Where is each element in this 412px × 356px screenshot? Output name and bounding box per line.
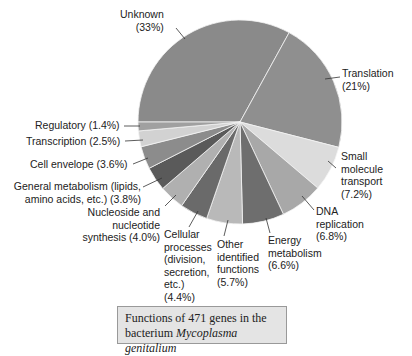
label-text: etc.)	[164, 278, 212, 291]
label-dna-replication: DNA replication (6.8%)	[316, 205, 364, 243]
label-text: Small	[341, 150, 383, 163]
label-text: General metabolism (lipids,	[14, 180, 141, 193]
label-value: (7.2%)	[341, 188, 383, 201]
label-text: replication	[316, 218, 364, 231]
label-text: functions	[217, 263, 259, 276]
label-text: Other	[217, 238, 259, 251]
label-value: (5.7%)	[217, 276, 259, 289]
label-value: (6.8%)	[316, 230, 364, 243]
label-text: (division,	[164, 253, 212, 266]
label-text: DNA	[316, 205, 364, 218]
label-text: molecule	[341, 163, 383, 176]
label-translation: Translation (21%)	[342, 67, 394, 92]
label-value: amino acids, etc.) (3.8%)	[14, 193, 141, 206]
label-value: (21%)	[342, 80, 394, 93]
label-text: metabolism	[268, 247, 322, 260]
label-text: Cellular	[164, 228, 212, 241]
label-value: (6.6%)	[268, 259, 322, 272]
caption-line-2: bacterium Mycoplasma genitalium	[125, 326, 286, 356]
label-value: (33%)	[120, 21, 164, 34]
figure-caption: Functions of 471 genes in the bacterium …	[117, 306, 287, 344]
label-cellular-processes: Cellular processes (division, secretion,…	[164, 228, 212, 303]
label-text: processes	[164, 241, 212, 254]
label-value: synthesis (4.0%)	[82, 231, 160, 244]
label-text: Unknown	[120, 8, 164, 21]
label-value: (4.4%)	[164, 291, 212, 304]
label-general-metabolism: General metabolism (lipids, amino acids,…	[14, 180, 141, 205]
label-text: Energy	[268, 234, 322, 247]
label-transcription: Transcription (2.5%)	[26, 135, 120, 148]
caption-prefix: bacterium	[125, 326, 176, 340]
label-unknown: Unknown (33%)	[120, 8, 164, 33]
label-cell-envelope: Cell envelope (3.6%)	[30, 158, 127, 171]
label-text: nucleotide	[82, 219, 160, 232]
label-text: Nucleoside and	[82, 206, 160, 219]
label-text: identified	[217, 251, 259, 264]
caption-line-1: Functions of 471 genes in the	[125, 311, 286, 326]
label-text: Translation	[342, 67, 394, 80]
label-nucleoside-synthesis: Nucleoside and nucleotide synthesis (4.0…	[82, 206, 160, 244]
label-regulatory: Regulatory (1.4%)	[35, 119, 120, 132]
label-text: transport	[341, 175, 383, 188]
label-text: secretion,	[164, 266, 212, 279]
label-small-molecule-transport: Small molecule transport (7.2%)	[341, 150, 383, 200]
label-energy-metabolism: Energy metabolism (6.6%)	[268, 234, 322, 272]
label-other-identified-functions: Other identified functions (5.7%)	[217, 238, 259, 288]
